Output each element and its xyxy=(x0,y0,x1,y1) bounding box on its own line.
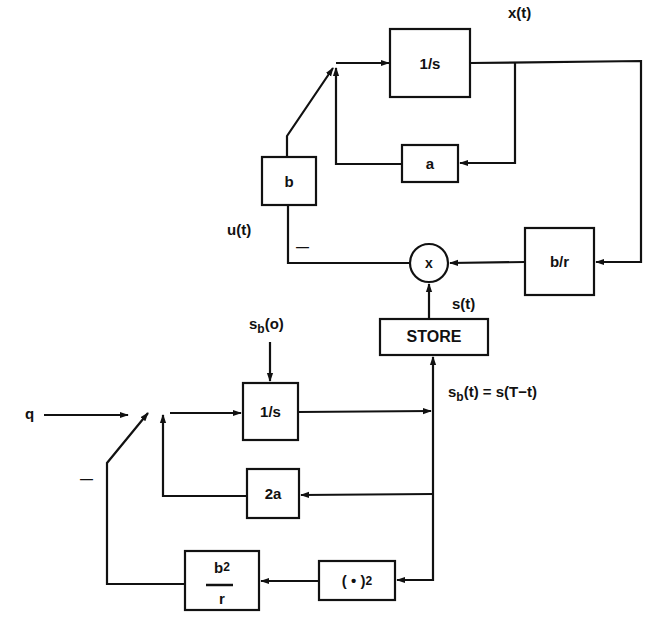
sb0-rest: (o) xyxy=(265,315,284,332)
minus-sign-bottom: — xyxy=(80,472,93,485)
square-base: ( • ) xyxy=(342,572,366,589)
square-exp: 2 xyxy=(365,574,372,588)
integrator-top-label: 1/s xyxy=(390,29,470,97)
diagram-wires xyxy=(0,0,667,637)
gain-b-label: b xyxy=(262,157,316,205)
b2r-num-base: b xyxy=(214,559,223,576)
sbt-rest: (t) = s(T−t) xyxy=(464,383,537,400)
store-label: STORE xyxy=(380,319,488,355)
signal-s-t: s(t) xyxy=(452,296,475,311)
signal-u-t: u(t) xyxy=(227,222,251,237)
minus-sign-top: — xyxy=(296,240,309,253)
b2r-denominator: r xyxy=(185,588,259,608)
integrator-bottom-label: 1/s xyxy=(243,383,298,440)
signal-sb-t: sb(t) = s(T−t) xyxy=(448,384,537,403)
multiplier-label: x xyxy=(410,244,448,282)
sbt-sub: b xyxy=(456,390,463,404)
signal-q: q xyxy=(25,406,34,421)
sb0-sub: b xyxy=(257,322,264,336)
b2r-numerator: b2 xyxy=(185,553,259,581)
signal-sb-0: sb(o) xyxy=(249,316,284,335)
gain-2a-label: 2a xyxy=(247,469,299,518)
gain-b-over-r-label: b/r xyxy=(525,228,594,295)
block-diagram: 1/s a b b/r x STORE 1/s 2a ( • )2 b2 r x… xyxy=(0,0,667,637)
gain-a-label: a xyxy=(402,145,458,182)
signal-x-t: x(t) xyxy=(508,5,531,20)
b2r-num-exp: 2 xyxy=(223,560,230,574)
square-label: ( • )2 xyxy=(319,561,395,600)
